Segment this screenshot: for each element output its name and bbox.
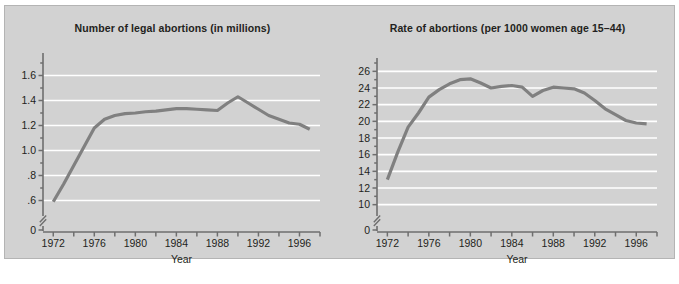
y-tick-label: .8 (6, 170, 36, 181)
x-tick-label: 1992 (578, 238, 612, 249)
y-tick-label: 18 (340, 133, 370, 144)
axes (374, 58, 657, 232)
y-tick-label: 0 (6, 225, 36, 236)
x-tick-label: 1976 (412, 238, 446, 249)
gridlines (377, 71, 657, 204)
plot-area: 2624222018161412100197219761980198419881… (377, 63, 657, 213)
y-tick-label: .6 (6, 195, 36, 206)
y-tick-label: 26 (340, 66, 370, 77)
data-series-line (387, 79, 646, 180)
chart-title: Number of legal abortions (in millions) (5, 22, 340, 34)
y-tick-label: 16 (340, 149, 370, 160)
y-tick-label: 12 (340, 183, 370, 194)
y-tick-label: 1.2 (6, 120, 36, 131)
y-tick-label: 14 (340, 166, 370, 177)
y-tick-label: 10 (340, 199, 370, 210)
y-tick-label: 1.4 (6, 95, 36, 106)
x-tick-label: 1996 (282, 238, 316, 249)
y-tick-label: 20 (340, 116, 370, 127)
y-tick-label: 24 (340, 83, 370, 94)
gridlines (43, 76, 320, 201)
figure-panel: Number of legal abortions (in millions) … (4, 5, 675, 259)
x-tick-label: 1988 (536, 238, 570, 249)
x-tick-label: 1996 (619, 238, 653, 249)
x-tick-label: 1972 (370, 238, 404, 249)
axes (40, 53, 320, 232)
x-tick-label: 1980 (453, 238, 487, 249)
x-tick-label: 1972 (36, 238, 70, 249)
chart-title: Rate of abortions (per 1000 women age 15… (340, 22, 675, 34)
chart-number-of-legal-abortions: Number of legal abortions (in millions) … (5, 6, 340, 258)
x-tick-label: 1988 (200, 238, 234, 249)
plot-svg (43, 63, 360, 253)
plot-svg (377, 63, 679, 253)
x-axis-title: Year (357, 253, 677, 265)
x-tick-label: 1980 (118, 238, 152, 249)
x-axis-title: Year (23, 253, 340, 265)
chart-rate-of-abortions: Rate of abortions (per 1000 women age 15… (340, 6, 675, 258)
x-tick-label: 1984 (159, 238, 193, 249)
x-tick-label: 1984 (495, 238, 529, 249)
x-tick-label: 1992 (241, 238, 275, 249)
plot-area: 1.61.41.21.0.8.6019721976198019841988199… (43, 63, 320, 213)
data-series-line (53, 97, 309, 202)
x-tick-label: 1976 (77, 238, 111, 249)
y-tick-label: 0 (340, 225, 370, 236)
y-tick-label: 1.6 (6, 70, 36, 81)
y-ticks (373, 63, 378, 230)
y-tick-label: 22 (340, 99, 370, 110)
y-tick-label: 1.0 (6, 145, 36, 156)
